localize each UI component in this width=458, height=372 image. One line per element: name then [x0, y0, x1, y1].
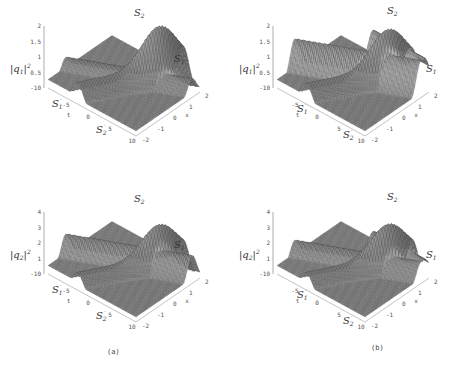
t-tick-label: 5 — [337, 125, 341, 132]
t-tick-label: -10 — [259, 84, 270, 91]
x-tick-label: -1 — [157, 125, 165, 132]
z-tick-label: 2 — [266, 239, 270, 246]
t-axis-label: t — [67, 297, 71, 304]
x-tick-label: 0 — [173, 300, 177, 307]
x-tick-label: 0 — [173, 114, 177, 121]
panel-b-top: 0.511.52-10|q1|2-50510-2-1012txS2S1S1-S2… — [229, 0, 458, 172]
x-tick-label: 2 — [205, 92, 209, 99]
x-tick-label: 0 — [402, 300, 406, 307]
x-tick-label: -1 — [157, 311, 165, 318]
surface-plot: 0.511.52-10|q1|2-50510-2-1012txS2S1S1-S2… — [0, 0, 229, 172]
x-tick-label: 1 — [418, 289, 422, 296]
x-tick-label: -1 — [386, 125, 394, 132]
t-tick-label: 0 — [315, 299, 319, 306]
z-tick-label: 1.5 — [30, 38, 41, 45]
z-axis-label: |q1|2 — [239, 62, 260, 75]
z-tick-label: 2 — [266, 22, 270, 29]
soliton-label: S1 — [426, 249, 437, 261]
soliton-label: S1 — [426, 63, 437, 75]
z-tick-label: 2 — [37, 22, 41, 29]
z-tick-label: 4 — [266, 208, 270, 215]
t-tick-label: 10 — [128, 323, 136, 330]
t-tick-label: -5 — [62, 101, 70, 108]
z-tick-label: 0.5 — [30, 69, 41, 76]
t-tick-label: 0 — [315, 113, 319, 120]
panel-a-bottom: 1234-10|q2|2-50510-2-1012txS2S1S1-S2- — [0, 186, 229, 358]
x-tick-label: 1 — [189, 289, 193, 296]
x-tick-label: 0 — [402, 114, 406, 121]
panel-b-bottom: 1234-10|q2|2-50510-2-1012txS2S1S1-S2- — [229, 186, 458, 358]
z-axis-label: |q2|2 — [239, 248, 260, 261]
surface-mesh — [48, 222, 200, 317]
t-tick-label: -10 — [30, 270, 41, 277]
x-axis-label: x — [414, 111, 418, 118]
z-tick-label: 1 — [37, 53, 41, 60]
x-tick-label: -2 — [371, 136, 379, 143]
t-tick-label: 10 — [128, 137, 136, 144]
t-tick-label: -10 — [259, 270, 270, 277]
soliton-label: S1- — [297, 101, 308, 115]
t-tick-label: 0 — [86, 299, 90, 306]
soliton-label: S2 — [387, 191, 398, 203]
soliton-label: S2- — [96, 122, 107, 136]
surface-mesh — [277, 222, 429, 317]
soliton-label: S2- — [343, 127, 354, 141]
z-tick-label: 0.5 — [259, 69, 270, 76]
t-tick-label: 10 — [357, 323, 365, 330]
soliton-label: S2- — [343, 313, 354, 327]
surface-mesh — [48, 26, 200, 131]
soliton-label: S1- — [52, 96, 63, 110]
surface-plot: 1234-10|q2|2-50510-2-1012txS2S1S1-S2- — [0, 186, 229, 358]
t-tick-label: -5 — [62, 287, 70, 294]
soliton-label: S2 — [387, 5, 398, 17]
z-tick-label: 1 — [266, 255, 270, 262]
z-tick-label: 2 — [37, 239, 41, 246]
z-tick-label: 3 — [266, 224, 270, 231]
x-tick-label: -2 — [142, 322, 150, 329]
x-tick-label: 2 — [434, 92, 438, 99]
caption-a: (a) — [107, 348, 120, 356]
soliton-label: S1- — [52, 282, 63, 296]
t-tick-label: 0 — [86, 113, 90, 120]
t-tick-label: 5 — [108, 125, 112, 132]
soliton-label: S1- — [297, 287, 308, 301]
x-axis-label: x — [185, 297, 189, 304]
x-tick-label: 1 — [189, 103, 193, 110]
z-tick-label: 1 — [37, 255, 41, 262]
soliton-label: S2- — [96, 308, 107, 322]
x-tick-label: -2 — [371, 322, 379, 329]
z-tick-label: 3 — [37, 224, 41, 231]
x-axis-label: x — [185, 111, 189, 118]
z-tick-label: 1.5 — [259, 38, 270, 45]
soliton-label: S2 — [134, 193, 145, 205]
caption-b: (b) — [371, 344, 384, 352]
x-tick-label: -1 — [386, 311, 394, 318]
z-axis-label: |q1|2 — [10, 62, 31, 75]
z-axis-label: |q2|2 — [10, 248, 31, 261]
z-tick-label: 1 — [266, 53, 270, 60]
t-tick-label: 5 — [108, 311, 112, 318]
z-tick-label: 4 — [37, 208, 41, 215]
x-tick-label: 2 — [434, 278, 438, 285]
x-tick-label: -2 — [142, 136, 150, 143]
x-tick-label: 2 — [205, 278, 209, 285]
soliton-label: S2 — [134, 7, 145, 19]
surface-mesh — [277, 29, 429, 131]
t-tick-label: 5 — [337, 311, 341, 318]
t-tick-label: -10 — [30, 84, 41, 91]
surface-plot: 0.511.52-10|q1|2-50510-2-1012txS2S1S1-S2… — [229, 0, 458, 172]
panel-a-top: 0.511.52-10|q1|2-50510-2-1012txS2S1S1-S2… — [0, 0, 229, 172]
x-axis-label: x — [414, 297, 418, 304]
t-tick-label: 10 — [357, 137, 365, 144]
x-tick-label: 1 — [418, 103, 422, 110]
t-axis-label: t — [67, 111, 71, 118]
surface-plot: 1234-10|q2|2-50510-2-1012txS2S1S1-S2- — [229, 186, 458, 358]
